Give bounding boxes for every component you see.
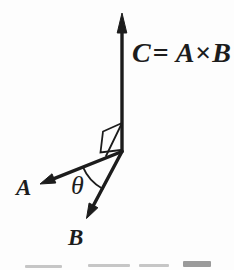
equation-a-symbol: A	[176, 37, 195, 68]
equals-sign: =	[153, 37, 169, 68]
cut-off-caption-fragment	[139, 264, 169, 267]
cut-off-caption-fragment	[183, 261, 211, 267]
cross-product-sign: ×	[195, 37, 211, 68]
vector-b-label: B	[68, 226, 83, 249]
cross-product-figure: C=A×B A B θ	[0, 0, 234, 270]
vector-a-label: A	[16, 176, 31, 199]
cut-off-caption-fragment	[25, 265, 62, 268]
vector-c-arrowhead-icon	[117, 13, 127, 33]
angle-arc	[83, 167, 103, 189]
equation-c-symbol: C	[132, 37, 151, 68]
vector-a-shaft	[54, 152, 122, 179]
theta-angle-label: θ	[71, 173, 84, 199]
cut-off-caption-fragment	[88, 264, 130, 267]
vector-a-arrowhead-icon	[40, 174, 56, 184]
right-angle-marker	[101, 123, 123, 153]
vector-b-arrowhead-icon	[87, 203, 98, 219]
equation-label: C=A×B	[132, 39, 231, 67]
equation-b-symbol: B	[212, 37, 231, 68]
